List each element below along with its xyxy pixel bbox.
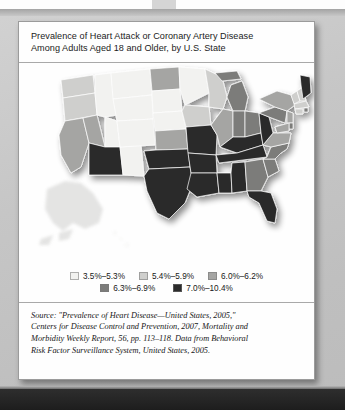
state-MN — [179, 67, 209, 105]
state-MO — [186, 125, 217, 155]
legend-item-2: 5.4%–5.9% — [139, 272, 194, 281]
legend-item-4: 6.3%–6.9% — [100, 284, 155, 293]
source-line-3: Morbidity Weekly Report, 56, pp. 113–118… — [31, 333, 302, 345]
legend-label-1: 3.5%–5.3% — [83, 272, 125, 281]
state-CT — [295, 109, 303, 114]
state-KS — [155, 129, 188, 150]
legend-label-3: 6.0%–6.2% — [221, 272, 263, 281]
source-line-4: Risk Factor Surveillance System, United … — [31, 345, 302, 357]
state-CO — [117, 119, 155, 147]
legend-swatch-icon-3 — [208, 272, 217, 280]
legend-label-2: 5.4%–5.9% — [152, 272, 194, 281]
legend-swatch-icon-1 — [70, 272, 79, 280]
state-FL — [247, 191, 277, 223]
source-line-2: Centers for Disease Control and Preventi… — [31, 321, 302, 333]
state-AK — [39, 181, 103, 245]
legend-item-1: 3.5%–5.3% — [70, 272, 125, 281]
state-MS — [217, 173, 232, 193]
page-root: Prevalence of Heart Attack or Coronary A… — [0, 0, 345, 410]
state-RI — [304, 108, 308, 112]
state-NJ — [287, 111, 293, 123]
state-AR — [188, 153, 217, 173]
legend-row-1: 3.5%–5.3% 5.4%–5.9% 6.0%–6.2% — [29, 272, 304, 281]
state-AZ — [89, 143, 123, 175]
figure-card: Prevalence of Heart Attack or Coronary A… — [18, 21, 315, 380]
us-map-svg — [19, 63, 314, 271]
page-top-shadow — [0, 9, 345, 16]
state-NE — [153, 111, 186, 131]
source-line-1: Source: "Prevalence of Heart Disease—Uni… — [31, 310, 302, 322]
legend-item-3: 6.0%–6.2% — [208, 272, 263, 281]
legend-swatch-icon-2 — [139, 272, 148, 280]
state-OH — [245, 111, 261, 137]
state-MT — [111, 69, 152, 99]
figure-title-line-1: Prevalence of Heart Attack or Coronary A… — [31, 30, 304, 42]
legend-label-5: 7.0%–10.4% — [186, 284, 233, 293]
state-IA — [182, 105, 211, 127]
figure-header: Prevalence of Heart Attack or Coronary A… — [19, 22, 314, 63]
legend-label-4: 6.3%–6.9% — [113, 284, 155, 293]
state-WY — [113, 95, 153, 121]
state-HI — [113, 230, 130, 247]
state-LA — [187, 173, 219, 197]
state-TX — [144, 167, 193, 219]
legend-swatch-icon-4 — [100, 284, 109, 292]
page-top-white-strip — [0, 0, 345, 9]
legend-item-5: 7.0%–10.4% — [173, 284, 233, 293]
state-MD — [275, 123, 289, 133]
state-MI — [227, 81, 248, 111]
page-bottom-dark-band — [0, 389, 345, 410]
figure-source-block: Source: "Prevalence of Heart Disease—Uni… — [19, 302, 314, 364]
state-NY — [259, 91, 295, 111]
legend-row-2: 6.3%–6.9% 7.0%–10.4% — [29, 284, 304, 293]
choropleth-map — [19, 63, 314, 271]
state-SD — [152, 89, 182, 113]
figure-title: Prevalence of Heart Attack or Coronary A… — [31, 30, 304, 55]
map-legend: 3.5%–5.3% 5.4%–5.9% 6.0%–6.2% 6.3%–6.9% — [19, 271, 314, 302]
state-NM — [120, 145, 144, 176]
state-OK — [144, 149, 190, 169]
state-CA — [59, 118, 89, 173]
figure-title-line-2: Among Adults Aged 18 and Older, by U.S. … — [31, 42, 304, 54]
state-IN — [233, 111, 245, 137]
figure-source-text: Source: "Prevalence of Heart Disease—Uni… — [31, 310, 302, 356]
state-DE — [289, 123, 293, 129]
legend-swatch-icon-5 — [173, 284, 182, 292]
state-ND — [150, 67, 180, 91]
state-AL — [231, 162, 247, 193]
